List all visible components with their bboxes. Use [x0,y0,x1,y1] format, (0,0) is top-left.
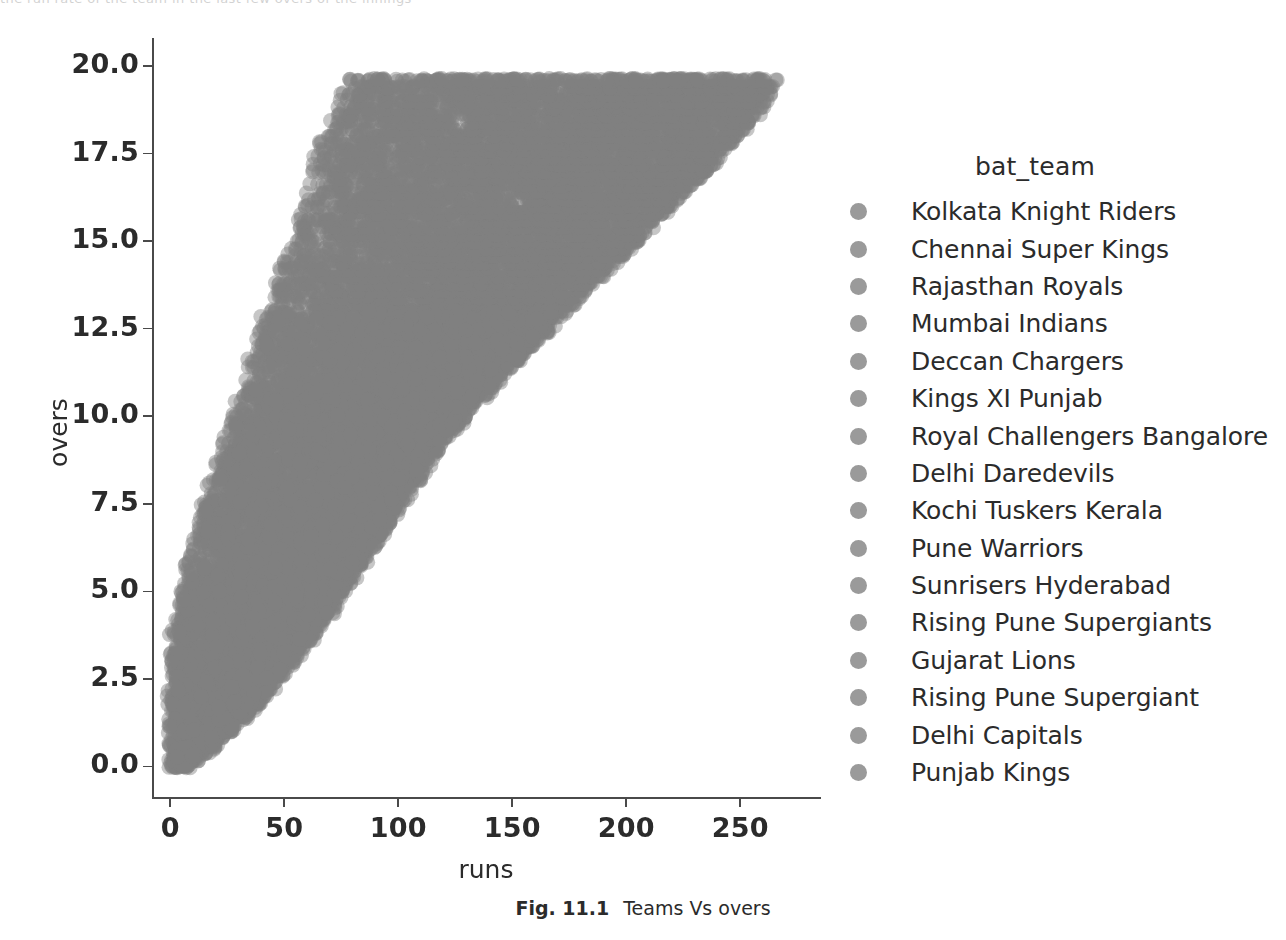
legend-title: bat_team [845,152,1225,181]
figure-caption-number: Fig. 11.1 [515,897,609,919]
legend-marker-icon [850,315,867,332]
y-tick-label: 0.0 [19,748,139,779]
y-tick [143,240,152,242]
legend-item[interactable]: Gujarat Lions [845,642,1275,679]
legend-rows: Kolkata Knight RidersChennai Super Kings… [845,193,1275,791]
page-text-bleed-fragment: the run rate of the team in the last few… [0,0,412,6]
figure-container: the run rate of the team in the last few… [0,0,1286,940]
legend-marker-icon [850,764,867,781]
legend-marker-icon [850,390,867,407]
legend-marker-icon [850,278,867,295]
legend-item-label: Rising Pune Supergiant [911,683,1199,712]
legend-item[interactable]: Deccan Chargers [845,343,1275,380]
legend-item-label: Kochi Tuskers Kerala [911,496,1163,525]
scatter-points-canvas [152,38,820,798]
legend-item-label: Kings XI Punjab [911,384,1102,413]
x-tick [283,798,285,807]
legend-item[interactable]: Rising Pune Supergiants [845,604,1275,641]
x-tick-label: 250 [680,812,800,843]
y-axis-label: overs [44,398,73,467]
x-tick-label: 200 [566,812,686,843]
x-tick-label: 100 [338,812,458,843]
legend-item-label: Deccan Chargers [911,347,1124,376]
legend-item[interactable]: Kings XI Punjab [845,380,1275,417]
y-tick-label: 17.5 [19,136,139,167]
legend-item[interactable]: Kolkata Knight Riders [845,193,1275,230]
x-tick-label: 0 [110,812,230,843]
y-tick-label: 2.5 [19,661,139,692]
legend-item[interactable]: Punjab Kings [845,754,1275,791]
x-tick [625,798,627,807]
legend-item-label: Mumbai Indians [911,309,1108,338]
legend-marker-icon [850,540,867,557]
y-tick-label: 7.5 [19,486,139,517]
y-tick-label: 5.0 [19,573,139,604]
scatter-plot-panel [152,38,820,798]
page-text-bleed: the run rate of the team in the last few… [0,0,1286,8]
legend-item-label: Delhi Capitals [911,721,1083,750]
y-tick [143,65,152,67]
legend-marker-icon [850,428,867,445]
legend-item[interactable]: Mumbai Indians [845,305,1275,342]
legend-item-label: Rajasthan Royals [911,272,1123,301]
legend-item-label: Kolkata Knight Riders [911,197,1176,226]
x-tick [739,798,741,807]
y-tick-label: 12.5 [19,311,139,342]
y-tick [143,503,152,505]
legend-item[interactable]: Pune Warriors [845,530,1275,567]
legend-marker-icon [850,241,867,258]
legend-item-label: Chennai Super Kings [911,235,1169,264]
y-tick-label: 15.0 [19,223,139,254]
x-tick-label: 150 [452,812,572,843]
legend: bat_team Kolkata Knight RidersChennai Su… [845,152,1275,791]
figure-caption-text: Teams Vs overs [623,897,770,919]
x-axis-label: runs [152,855,820,884]
legend-item[interactable]: Kochi Tuskers Kerala [845,492,1275,529]
legend-item[interactable]: Delhi Capitals [845,716,1275,753]
y-tick [143,591,152,593]
figure-caption: Fig. 11.1Teams Vs overs [0,897,1286,919]
legend-item-label: Sunrisers Hyderabad [911,571,1171,600]
legend-item-label: Gujarat Lions [911,646,1076,675]
y-axis-spine [152,38,154,799]
y-tick [143,328,152,330]
y-tick-label: 10.0 [19,398,139,429]
legend-marker-icon [850,727,867,744]
x-tick [397,798,399,807]
legend-marker-icon [850,203,867,220]
legend-item-label: Royal Challengers Bangalore [911,422,1268,451]
legend-item-label: Delhi Daredevils [911,459,1114,488]
legend-item[interactable]: Rising Pune Supergiant [845,679,1275,716]
x-tick-label: 50 [224,812,344,843]
legend-marker-icon [850,652,867,669]
y-tick [143,766,152,768]
legend-item[interactable]: Delhi Daredevils [845,455,1275,492]
x-axis-spine [152,797,821,799]
legend-item-label: Pune Warriors [911,534,1083,563]
legend-item[interactable]: Chennai Super Kings [845,230,1275,267]
legend-item-label: Punjab Kings [911,758,1070,787]
legend-marker-icon [850,353,867,370]
x-tick [511,798,513,807]
y-tick [143,153,152,155]
legend-marker-icon [850,689,867,706]
x-tick [169,798,171,807]
legend-marker-icon [850,502,867,519]
y-axis-label-wrapper: overs [44,53,73,813]
y-tick-label: 20.0 [19,48,139,79]
legend-marker-icon [850,577,867,594]
legend-marker-icon [850,614,867,631]
y-tick [143,678,152,680]
legend-item[interactable]: Sunrisers Hyderabad [845,567,1275,604]
legend-item[interactable]: Royal Challengers Bangalore [845,417,1275,454]
legend-item-label: Rising Pune Supergiants [911,608,1212,637]
y-tick [143,415,152,417]
legend-item[interactable]: Rajasthan Royals [845,268,1275,305]
legend-marker-icon [850,465,867,482]
